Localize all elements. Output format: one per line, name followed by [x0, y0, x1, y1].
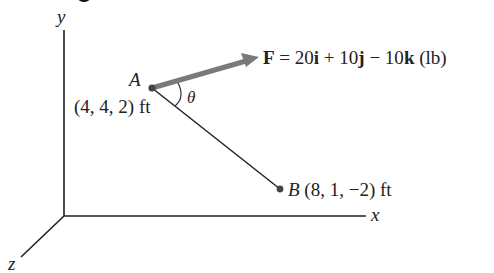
point-b-name: B: [288, 179, 300, 200]
point-a-dot: [148, 84, 155, 91]
force-arrow-shaft: [152, 61, 246, 88]
point-a-label: A: [129, 70, 141, 89]
force-arrow-head: [241, 53, 259, 67]
z-axis-label: z: [8, 254, 15, 273]
force-unit: (lb): [414, 47, 446, 68]
force-eq-part: = 20: [275, 47, 314, 68]
x-axis-label: x: [371, 205, 379, 224]
force-symbol: F: [263, 47, 275, 68]
z-axis: [21, 216, 64, 257]
y-axis-label: y: [57, 7, 65, 26]
line-ab: [152, 88, 280, 189]
unit-vector-k: k: [404, 47, 415, 68]
diagram-canvas: [0, 0, 494, 273]
point-b-label: B (8, 1, −2) ft: [288, 180, 392, 199]
force-plus-part: + 10: [319, 47, 358, 68]
angle-arc: [175, 81, 181, 106]
point-b-dot: [277, 186, 284, 193]
force-equation: F = 20i + 10j − 10k (lb): [263, 48, 447, 67]
point-b-coords: (8, 1, −2) ft: [304, 179, 391, 200]
point-a-coords: (4, 4, 2) ft: [74, 97, 151, 116]
angle-theta-label: θ: [187, 89, 195, 106]
force-minus-part: − 10: [365, 47, 404, 68]
